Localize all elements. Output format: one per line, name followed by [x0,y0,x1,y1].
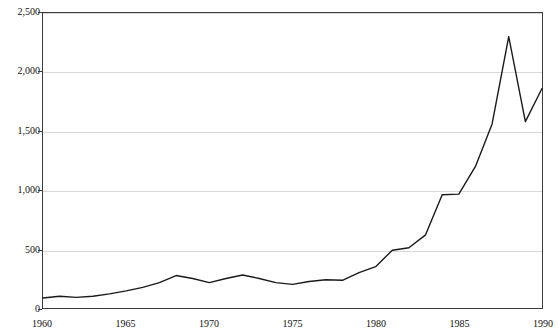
x-axis-tick-label: 1970 [179,318,239,329]
x-axis-tick-label: 1990 [513,318,558,329]
x-axis-tick-label: 1975 [263,318,323,329]
x-axis-tick-label: 1980 [346,318,406,329]
x-axis-tick-label: 1985 [430,318,490,329]
x-axis-tick-label: 1965 [96,318,156,329]
x-axis-tick-label: 1960 [12,318,72,329]
